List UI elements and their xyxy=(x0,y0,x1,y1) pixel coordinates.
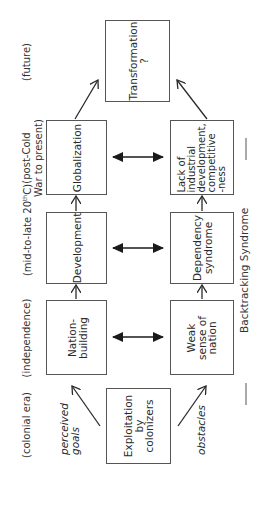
lack-industrial-label: Lack of industrial development, competit… xyxy=(177,123,227,192)
lack-industrial-box: Lack of industrial development, competit… xyxy=(170,120,234,195)
dependency-syndrome-label: Dependency syndrome xyxy=(192,215,213,281)
development-label: Development xyxy=(71,213,82,284)
exploitation-label: Exploitation by colonizers xyxy=(123,395,155,457)
era-label-independence: (independence) xyxy=(22,298,34,378)
exploitation-box: Exploitation by colonizers xyxy=(106,388,171,464)
development-box: Development xyxy=(46,212,107,284)
globalization-label: Globalization xyxy=(71,123,82,191)
arrow-globalization-to-transformation xyxy=(75,80,98,119)
obstacles-label: obstacles xyxy=(196,404,208,456)
era-label-colonial: (colonial era) xyxy=(22,391,34,459)
transformation-label: Transformation ? xyxy=(127,22,148,101)
dependency-syndrome-box: Dependency syndrome xyxy=(170,212,234,284)
transformation-box: Transformation ? xyxy=(105,20,170,102)
weak-sense-box: Weak sense of nation xyxy=(170,300,234,375)
weak-sense-label: Weak sense of nation xyxy=(186,316,218,360)
arrow-lack-to-transformation xyxy=(177,80,207,119)
era-label-postcold: (post-Cold War to present) xyxy=(21,115,45,201)
perceived-goals-label: perceived goals xyxy=(59,405,83,455)
nation-building-label: Nation- building xyxy=(66,316,87,358)
backtracking-syndrome-label: Backtracking Syndrome xyxy=(239,213,253,333)
globalization-box: Globalization xyxy=(46,120,107,195)
era-label-future: (future) xyxy=(22,40,34,84)
nation-building-box: Nation- building xyxy=(46,300,107,375)
